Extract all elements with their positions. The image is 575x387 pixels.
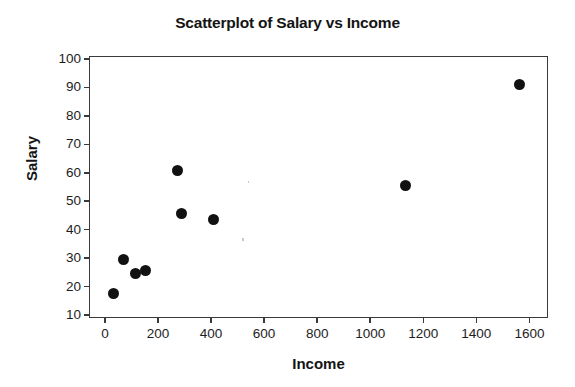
data-point xyxy=(172,165,183,176)
plot-area xyxy=(89,56,548,318)
scan-artifact-speck xyxy=(248,181,249,183)
x-axis-tick-mark xyxy=(263,318,265,323)
x-axis-tick-mark xyxy=(210,318,212,323)
y-axis-tick-label: 60 xyxy=(47,166,81,180)
y-axis-title: Salary xyxy=(23,114,40,204)
x-axis-tick-label: 0 xyxy=(80,327,130,341)
chart-title: Scatterplot of Salary vs Income xyxy=(0,14,575,32)
data-point xyxy=(108,288,119,299)
x-axis-tick-mark xyxy=(316,318,318,323)
x-axis-tick-mark xyxy=(369,318,371,323)
y-axis-tick-label: 20 xyxy=(47,280,81,294)
data-point xyxy=(514,79,525,90)
x-axis-tick-mark xyxy=(423,318,425,323)
x-axis-tick-mark xyxy=(476,318,478,323)
y-axis-tick-label: 90 xyxy=(47,80,81,94)
x-axis-tick-label: 1600 xyxy=(504,327,554,341)
x-axis-tick-label: 1400 xyxy=(451,327,501,341)
y-axis-tick-label: 70 xyxy=(47,137,81,151)
y-axis-tick-label: 30 xyxy=(47,251,81,265)
data-point xyxy=(400,180,411,191)
x-axis-tick-mark xyxy=(104,318,106,323)
data-point xyxy=(140,265,151,276)
x-axis-tick-label: 800 xyxy=(292,327,342,341)
y-axis-tick-label: 10 xyxy=(47,308,81,322)
data-points-layer xyxy=(90,57,547,317)
x-axis-tick-mark xyxy=(529,318,531,323)
x-axis-tick-mark xyxy=(157,318,159,323)
data-point xyxy=(208,214,219,225)
x-axis-tick-label: 200 xyxy=(133,327,183,341)
y-axis-tick-label: 80 xyxy=(47,109,81,123)
x-axis-tick-label: 1200 xyxy=(398,327,448,341)
y-axis-tick-label: 40 xyxy=(47,223,81,237)
x-axis-title: Income xyxy=(89,355,548,372)
data-point xyxy=(130,268,141,279)
data-point xyxy=(176,208,187,219)
y-axis-tick-label: 50 xyxy=(47,194,81,208)
x-axis-tick-label: 1000 xyxy=(345,327,395,341)
x-axis-tick-label: 600 xyxy=(239,327,289,341)
x-axis-tick-label: 400 xyxy=(186,327,236,341)
data-point xyxy=(118,254,129,265)
scan-artifact-speck xyxy=(242,238,244,241)
scatterplot-figure: Scatterplot of Salary vs Income Salary 1… xyxy=(0,0,575,387)
y-axis-tick-label: 100 xyxy=(47,52,81,66)
